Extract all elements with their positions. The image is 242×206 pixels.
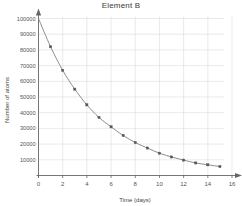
y-tick-label: 40000	[20, 110, 36, 116]
y-tick-label: 90000	[20, 31, 36, 37]
y-tick-label: 20000	[20, 141, 36, 147]
y-axis-ticks: 1000020000300004000050000600007000080000…	[17, 16, 36, 163]
x-tick-label: 14	[204, 181, 211, 187]
y-tick-label: 80000	[20, 47, 36, 53]
data-point-marker	[110, 126, 112, 128]
y-tick-label: 10000	[20, 157, 36, 163]
data-point-marker	[86, 104, 88, 106]
x-tick-label: 8	[134, 181, 138, 187]
y-axis-title: Number of atoms	[4, 77, 10, 123]
data-point-marker	[195, 162, 197, 164]
y-tick-label: 100000	[17, 16, 36, 22]
x-tick-label: 6	[109, 181, 113, 187]
data-point-marker	[98, 116, 100, 118]
data-point-marker	[146, 147, 148, 149]
data-point-marker	[74, 88, 76, 90]
x-tick-label: 0	[37, 181, 41, 187]
y-tick-label: 70000	[20, 63, 36, 69]
x-tick-label: 10	[156, 181, 163, 187]
data-point-marker	[122, 134, 124, 136]
x-tick-label: 4	[85, 181, 89, 187]
gridlines	[39, 17, 233, 176]
chart-container: Element B 100002000030000400005000060000…	[0, 0, 242, 206]
data-point-marker	[158, 152, 160, 154]
x-tick-label: 16	[229, 181, 236, 187]
data-point-marker	[219, 165, 221, 167]
data-point-marker	[183, 159, 185, 161]
data-point-marker	[134, 141, 136, 143]
x-axis-title: Time (days)	[119, 197, 150, 203]
data-point-marker	[170, 156, 172, 158]
y-tick-label: 30000	[20, 125, 36, 131]
y-tick-label: 60000	[20, 78, 36, 84]
x-tick-label: 12	[180, 181, 187, 187]
x-tick-label: 2	[61, 181, 65, 187]
x-axis-ticks: 0246810121416	[37, 176, 236, 187]
y-tick-label: 50000	[20, 94, 36, 100]
chart-plot-area: 1000020000300004000050000600007000080000…	[0, 0, 242, 206]
data-point-marker	[49, 46, 51, 48]
data-point-marker	[62, 69, 64, 71]
data-point-marker	[207, 164, 209, 166]
